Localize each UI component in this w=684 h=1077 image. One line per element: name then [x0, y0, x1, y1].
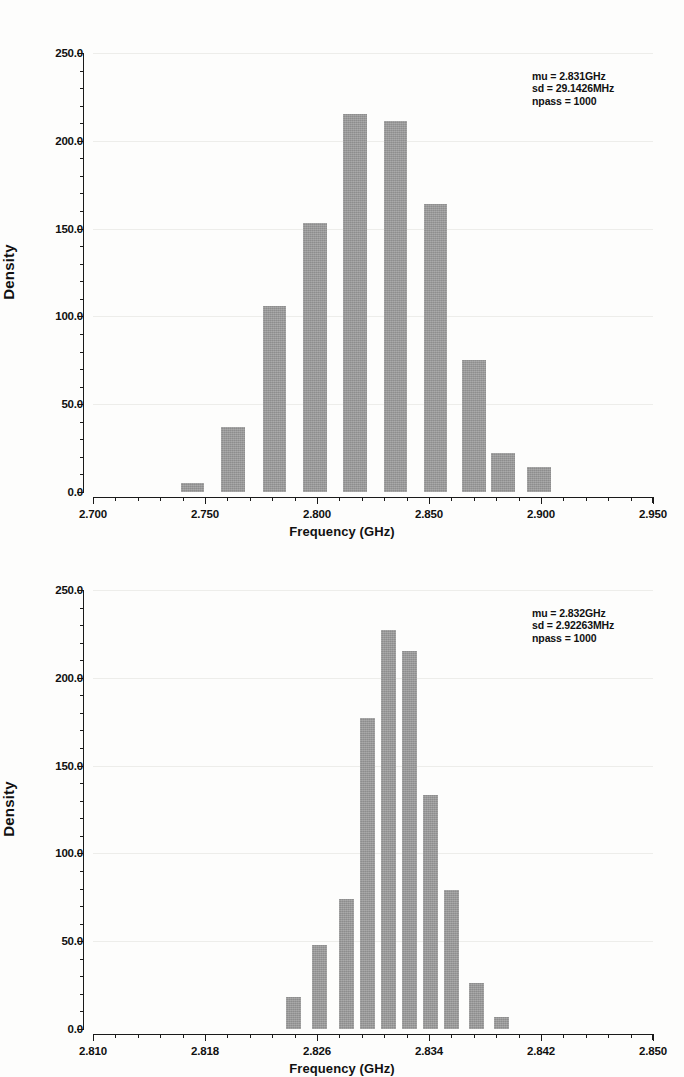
stats-annotation-1: mu = 2.831GHz sd = 29.1426MHz npass = 10…	[532, 70, 614, 107]
x-tick-minor	[384, 1034, 385, 1038]
x-tick-minor	[407, 497, 408, 501]
histogram-bar	[444, 890, 459, 1029]
x-tick-minor	[384, 497, 385, 501]
x-tick-minor	[295, 497, 296, 501]
y-tick-minor	[80, 748, 84, 749]
histogram-bar	[527, 467, 551, 492]
bars-2	[93, 590, 653, 1029]
x-tick-minor	[631, 1034, 632, 1038]
x-tick-minor	[183, 497, 184, 501]
y-tick-minor	[80, 123, 84, 124]
x-tick-label: 2.810	[79, 1045, 107, 1057]
y-tick-minor	[80, 88, 84, 89]
y-tick-minor	[80, 801, 84, 802]
y-tick-minor	[80, 369, 84, 370]
y-tick-minor	[80, 818, 84, 819]
histogram-bar	[303, 223, 327, 492]
y-tick-minor	[80, 713, 84, 714]
x-tick-minor	[563, 1034, 564, 1038]
x-tick-minor	[586, 1034, 587, 1038]
histogram-bar	[469, 983, 484, 1029]
x-tick-label: 2.800	[303, 508, 331, 520]
y-tick-minor	[80, 889, 84, 890]
x-tick-label: 2.818	[191, 1045, 219, 1057]
y-tick-label: 50.0	[61, 935, 83, 947]
histogram-bar	[343, 114, 367, 492]
x-tick-minor	[631, 497, 632, 501]
y-tick-minor	[80, 211, 84, 212]
histogram-bar	[221, 427, 245, 492]
x-tick-label: 2.842	[527, 1045, 555, 1057]
histogram-bar	[491, 453, 515, 492]
x-tick-major	[93, 497, 94, 504]
x-tick-minor	[451, 497, 452, 501]
histogram-bar	[181, 483, 205, 492]
histogram-bar	[286, 997, 301, 1029]
x-tick-major	[429, 1034, 430, 1041]
x-tick-minor	[138, 1034, 139, 1038]
x-tick-minor	[272, 1034, 273, 1038]
y-tick-label: 200.0	[55, 672, 83, 684]
y-tick-minor	[80, 959, 84, 960]
y-axis-title-2: Density	[0, 781, 17, 837]
x-tick-major	[205, 1034, 206, 1041]
x-tick-minor	[250, 1034, 251, 1038]
x-tick-label: 2.950	[639, 508, 667, 520]
y-tick-minor	[80, 71, 84, 72]
x-axis-1	[93, 497, 653, 498]
x-tick-minor	[519, 497, 520, 501]
histogram-panel-2: Density Frequency (GHz) mu = 2.832GHz sd…	[0, 537, 684, 1077]
y-tick-minor	[80, 836, 84, 837]
y-tick-minor	[80, 871, 84, 872]
x-tick-major	[541, 1034, 542, 1041]
x-axis-2	[93, 1034, 653, 1035]
histogram-bar	[263, 306, 287, 492]
y-axis-1	[83, 53, 84, 492]
y-tick-minor	[80, 474, 84, 475]
y-tick-minor	[80, 660, 84, 661]
y-tick-minor	[80, 457, 84, 458]
stats-annotation-2: mu = 2.832GHz sd = 2.92263MHz npass = 10…	[532, 607, 614, 644]
y-tick-minor	[80, 264, 84, 265]
y-tick-label: 0.0	[68, 486, 83, 498]
y-tick-minor	[80, 994, 84, 995]
histogram-bar	[494, 1017, 509, 1029]
x-axis-title-2: Frequency (GHz)	[0, 1061, 684, 1076]
x-tick-minor	[227, 497, 228, 501]
y-tick-minor	[80, 1011, 84, 1012]
y-tick-minor	[80, 643, 84, 644]
y-tick-minor	[80, 281, 84, 282]
x-tick-minor	[272, 497, 273, 501]
y-tick-minor	[80, 625, 84, 626]
y-tick-minor	[80, 730, 84, 731]
histogram-bar	[360, 718, 375, 1029]
x-tick-minor	[519, 1034, 520, 1038]
histogram-bar	[424, 204, 448, 492]
x-tick-major	[205, 497, 206, 504]
histogram-bar	[381, 630, 396, 1029]
histogram-bar	[423, 795, 438, 1029]
y-axis-2	[83, 590, 84, 1029]
x-tick-label: 2.900	[527, 508, 555, 520]
y-tick-label: 200.0	[55, 135, 83, 147]
x-tick-minor	[451, 1034, 452, 1038]
x-tick-minor	[362, 497, 363, 501]
y-tick-minor	[80, 906, 84, 907]
x-tick-minor	[115, 1034, 116, 1038]
annotation-sd-1: sd = 29.1426MHz	[532, 82, 614, 94]
y-tick-minor	[80, 924, 84, 925]
y-tick-label: 250.0	[55, 584, 83, 596]
y-tick-minor	[80, 608, 84, 609]
x-tick-major	[93, 1034, 94, 1041]
x-tick-label: 2.850	[639, 1045, 667, 1057]
y-tick-minor	[80, 352, 84, 353]
y-tick-label: 100.0	[55, 310, 83, 322]
x-tick-major	[653, 497, 654, 504]
x-tick-minor	[496, 1034, 497, 1038]
y-tick-label: 0.0	[68, 1023, 83, 1035]
x-tick-minor	[160, 1034, 161, 1038]
x-tick-minor	[474, 497, 475, 501]
y-tick-minor	[80, 783, 84, 784]
y-tick-minor	[80, 176, 84, 177]
y-axis-title-1: Density	[0, 244, 17, 300]
